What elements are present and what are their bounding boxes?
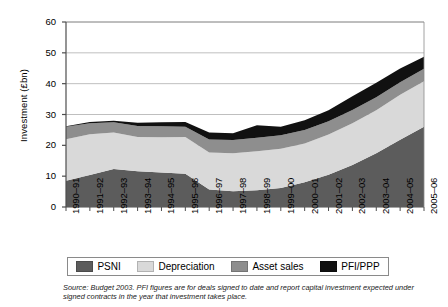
y-tick-label: 30 <box>26 110 56 120</box>
legend-item[interactable]: PFI/PPP <box>320 261 379 272</box>
x-tick-label: 1997–98 <box>237 178 248 214</box>
x-tick-label: 2005–06 <box>428 178 439 214</box>
x-tick-label: 2002–03 <box>356 178 367 214</box>
x-tick-label: 1995–96 <box>189 178 200 214</box>
x-tick-label: 2004–05 <box>404 178 415 214</box>
x-tick-label: 1990–91 <box>70 178 81 214</box>
x-tick-label: 2001–02 <box>333 178 344 214</box>
legend-swatch <box>320 261 337 272</box>
x-tick-label: 1991–92 <box>94 178 105 214</box>
legend-swatch <box>76 261 93 272</box>
y-tick-label: 50 <box>26 48 56 58</box>
y-tick-label: 10 <box>26 171 56 181</box>
y-tick-label: 0 <box>26 202 56 212</box>
legend-label: Depreciation <box>158 261 214 272</box>
x-tick-label: 1998–99 <box>261 178 272 214</box>
y-tick-label: 60 <box>26 17 56 27</box>
legend-item[interactable]: Asset sales <box>231 261 303 272</box>
x-tick-label: 1999–00 <box>285 178 296 214</box>
y-tick-label: 20 <box>26 140 56 150</box>
stacked-area-chart: Investment (£bn) 0102030405060 1990–9119… <box>0 0 448 307</box>
legend-label: PSNI <box>97 261 120 272</box>
x-tick-label: 1996–97 <box>213 178 224 214</box>
x-tick-label: 1993–94 <box>142 178 153 214</box>
source-note: Source: Budget 2003. PFI figures are for… <box>63 283 435 301</box>
legend-item[interactable]: PSNI <box>76 261 120 272</box>
chart-legend: PSNIDepreciationAsset salesPFI/PPP <box>67 257 389 276</box>
legend-item[interactable]: Depreciation <box>137 261 214 272</box>
legend-swatch <box>137 261 154 272</box>
y-tick-label: 40 <box>26 79 56 89</box>
x-tick-label: 2000–01 <box>309 178 320 214</box>
x-tick-label: 1992–93 <box>118 178 129 214</box>
x-tick-label: 1994–95 <box>165 178 176 214</box>
legend-swatch <box>231 261 248 272</box>
legend-label: PFI/PPP <box>341 261 379 272</box>
x-tick-label: 2003–04 <box>380 178 391 214</box>
legend-label: Asset sales <box>252 261 303 272</box>
